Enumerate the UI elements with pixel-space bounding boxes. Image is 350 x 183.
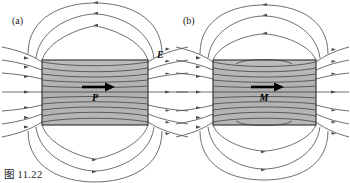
- panel-b-top-arcs: [200, 3, 328, 60]
- panel-a-field-label: E: [156, 49, 164, 60]
- field-line-diagram: P E (a): [0, 0, 350, 183]
- panel-b-exterior-lines-left: [176, 47, 213, 137]
- panel-a-vector-label: P: [92, 92, 99, 103]
- figure-caption: 图 11.22: [4, 166, 43, 181]
- panel-b-vector-label: M: [259, 92, 270, 103]
- panel-b: M (b): [176, 3, 349, 180]
- panel-a-label: (a): [12, 15, 23, 27]
- panel-a-bottom-arcs: [28, 125, 162, 182]
- panel-a: P E (a): [2, 1, 188, 182]
- panel-a-exterior-lines-left: [2, 47, 42, 137]
- figure-container: P E (a): [0, 0, 350, 183]
- panel-a-top-arcs: [28, 1, 162, 60]
- panel-b-label: (b): [183, 15, 195, 27]
- panel-b-exterior-lines-right: [316, 47, 349, 137]
- panel-b-bottom-arcs: [200, 125, 328, 180]
